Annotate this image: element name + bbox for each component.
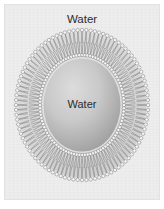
inner-water-label: Water (0, 98, 164, 110)
outer-water-label: Water (0, 13, 164, 25)
liposome-figure: Water Water (0, 0, 164, 209)
